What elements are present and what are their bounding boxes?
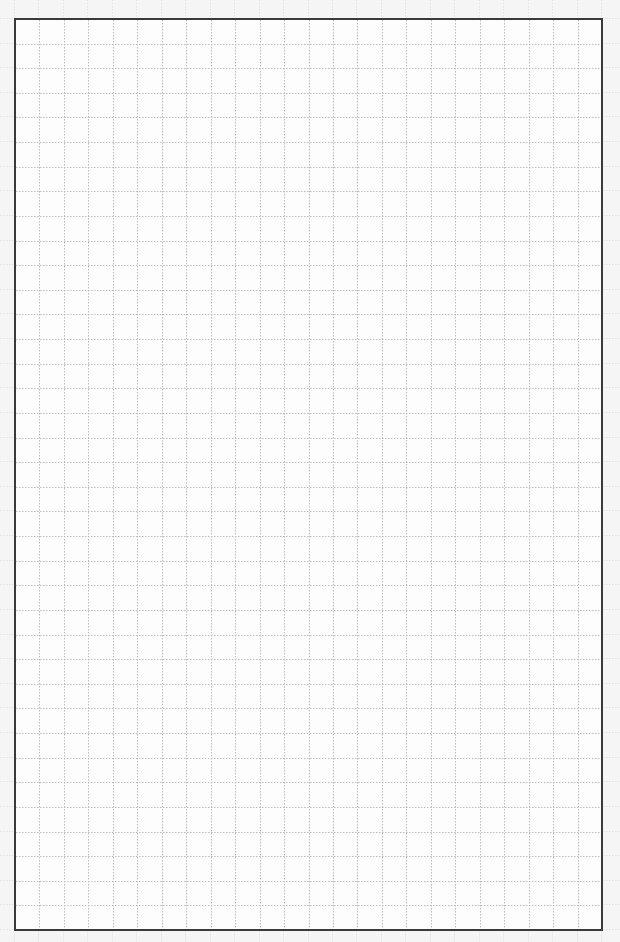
grid-paper-sheet bbox=[14, 18, 603, 931]
page bbox=[0, 0, 620, 942]
grid-lines bbox=[16, 20, 601, 929]
